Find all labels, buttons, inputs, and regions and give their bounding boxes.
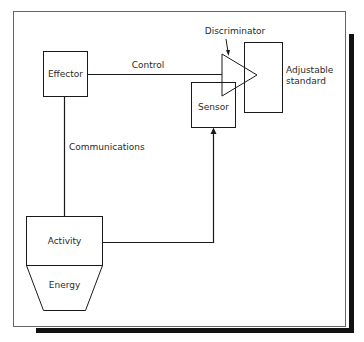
frame-shadow-bottom [36,328,354,333]
adjustable-standard-label-2: standard [286,76,326,86]
effector-label: Effector [48,69,83,79]
sensor-label: Sensor [198,102,229,112]
frame-shadow-right [349,34,354,333]
discriminator-label: Discriminator [205,26,266,36]
activity-label: Activity [48,236,82,246]
control-diagram: Effector Control Adjustable standard Sen… [0,0,364,342]
communications-label: Communications [69,142,145,152]
adjustable-standard-label-1: Adjustable [286,65,334,75]
control-label: Control [132,60,165,70]
energy-label: Energy [49,280,81,290]
sensor-node: Sensor [192,83,236,128]
